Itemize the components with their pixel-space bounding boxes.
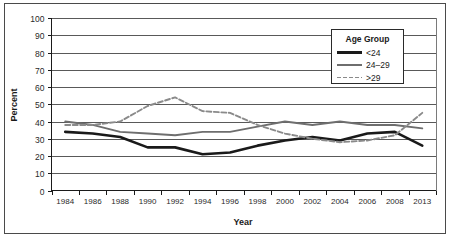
y-tick-label: 100 bbox=[30, 14, 44, 24]
y-tick-label: 10 bbox=[35, 169, 45, 179]
x-tick-label: 2013 bbox=[413, 197, 431, 206]
x-tick-label: 2002 bbox=[304, 197, 322, 206]
x-tick-label: 1988 bbox=[111, 197, 129, 206]
y-tick-label: 80 bbox=[35, 49, 45, 59]
y-tick-label: 40 bbox=[35, 118, 45, 128]
chart-figure: 0102030405060708090100 19841986198819901… bbox=[0, 0, 451, 243]
legend-label-1: <24 bbox=[366, 48, 381, 58]
plot-area-wrapper: 0102030405060708090100 19841986198819901… bbox=[0, 0, 451, 243]
x-tick-label: 1984 bbox=[56, 197, 74, 206]
x-tick-label: 1990 bbox=[139, 197, 157, 206]
y-tick-label: 0 bbox=[40, 187, 45, 197]
y-tick-label: 20 bbox=[35, 152, 45, 162]
x-tick-label: 2006 bbox=[358, 197, 376, 206]
legend-label-2: 24–29 bbox=[366, 60, 390, 70]
y-axis-title: Percent bbox=[9, 88, 19, 121]
y-tick-label: 60 bbox=[35, 83, 45, 93]
x-tick-label: 1998 bbox=[249, 197, 267, 206]
legend-label-3: >29 bbox=[366, 73, 381, 83]
y-tick-label: 30 bbox=[35, 135, 45, 145]
x-tick-label: 1992 bbox=[166, 197, 184, 206]
y-tick-label: 50 bbox=[35, 100, 45, 110]
y-tick-label: 70 bbox=[35, 66, 45, 76]
x-tick-label: 1996 bbox=[221, 197, 239, 206]
x-tick-label: 2000 bbox=[276, 197, 294, 206]
x-tick-label: 1986 bbox=[84, 197, 102, 206]
x-tick-label: 2004 bbox=[331, 197, 349, 206]
legend: Age Group <2424–29>29 bbox=[332, 30, 404, 84]
legend-title: Age Group bbox=[346, 34, 390, 44]
x-tick-label: 2008 bbox=[386, 197, 404, 206]
x-tick-label: 1994 bbox=[194, 197, 212, 206]
y-tick-labels: 0102030405060708090100 bbox=[30, 14, 44, 197]
y-tick-label: 90 bbox=[35, 31, 45, 41]
x-axis-title: Year bbox=[233, 217, 253, 227]
data-series-group bbox=[65, 97, 422, 154]
series-line-1 bbox=[65, 132, 422, 154]
x-tick-labels: 1984198619881990199219941996199820002002… bbox=[56, 197, 431, 206]
line-chart: 0102030405060708090100 19841986198819901… bbox=[0, 0, 451, 243]
